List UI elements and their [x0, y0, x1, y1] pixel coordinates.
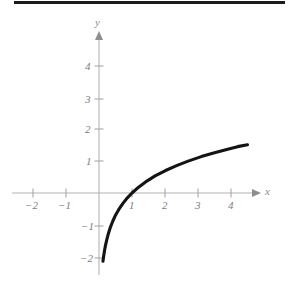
y-axis-group [95, 31, 104, 275]
y-axis-label: y [95, 17, 100, 28]
x-axis-label: x [265, 186, 270, 197]
x-tick-label-1: 1 [129, 200, 135, 211]
y-tick-label-1: 1 [86, 156, 92, 167]
y-tick-label--2: −2 [80, 253, 93, 264]
x-tick-label--1: −1 [58, 200, 71, 211]
x-tick-label-3: 3 [195, 200, 201, 211]
y-tick-label--1: −1 [81, 221, 94, 232]
plot-canvas [0, 0, 295, 290]
x-tick-label--2: −2 [25, 200, 38, 211]
y-axis-arrowhead [95, 31, 103, 40]
x-axis-arrowhead [252, 189, 261, 197]
log-curve [103, 145, 248, 262]
x-tick-label-2: 2 [162, 200, 168, 211]
y-tick-label-2: 2 [85, 124, 91, 135]
x-tick-label-4: 4 [228, 200, 234, 211]
figure-container: y x −2 −1 1 2 3 4 4 3 2 1 −1 −2 [0, 0, 295, 290]
y-tick-label-3: 3 [85, 94, 91, 105]
y-tick-label-4: 4 [85, 61, 91, 72]
